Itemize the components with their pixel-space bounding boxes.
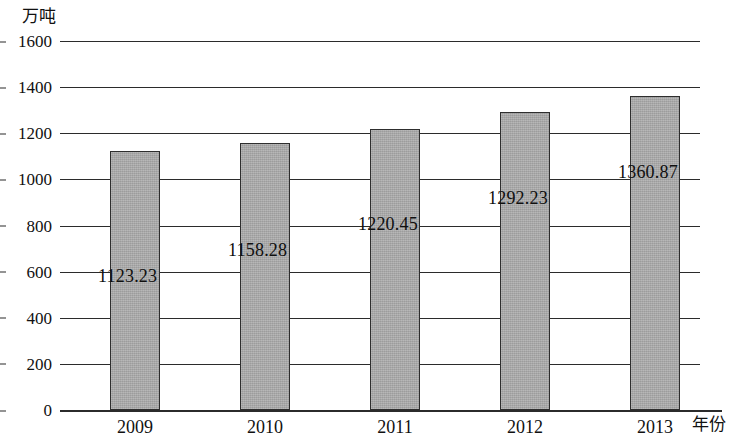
bar-fill-texture xyxy=(631,97,679,409)
gridline xyxy=(60,87,700,88)
y-axis-tick-label: 200 xyxy=(6,355,52,372)
y-axis-tick-label: 400 xyxy=(6,309,52,326)
y-axis-tick-label: 1400 xyxy=(6,79,52,96)
bar-value-label: 1360.87 xyxy=(618,163,678,181)
y-axis-tick-mark xyxy=(0,133,6,134)
x-axis-title: 年份 xyxy=(692,416,726,433)
x-axis-tick-label: 2013 xyxy=(637,418,673,436)
bar-fill-texture xyxy=(241,144,289,409)
plot-area: 1123.231158.281220.451292.231360.87 xyxy=(60,41,722,410)
y-axis-title: 万吨 xyxy=(22,8,56,25)
bar-value-label: 1220.45 xyxy=(358,215,418,233)
y-axis-tick-label: 1000 xyxy=(6,171,52,188)
bar-value-label: 1123.23 xyxy=(98,267,157,285)
y-axis-tick-mark xyxy=(0,41,6,42)
bar xyxy=(630,96,680,410)
bar-fill-texture xyxy=(501,113,549,409)
y-axis-tick-label: 1600 xyxy=(6,33,52,50)
y-axis-tick-mark xyxy=(0,179,6,180)
y-axis-tick-labels: 16001400120010008006004002000 xyxy=(0,41,52,410)
bar-chart: 万吨 年份 16001400120010008006004002000 1123… xyxy=(0,0,738,442)
y-axis-tick-label: 600 xyxy=(6,263,52,280)
bar-value-label: 1158.28 xyxy=(228,241,287,259)
y-axis-tick-label: 800 xyxy=(6,217,52,234)
y-axis-tick-mark xyxy=(0,364,6,365)
bar-value-label: 1292.23 xyxy=(488,189,548,207)
y-axis-tick-mark xyxy=(0,318,6,319)
x-axis-baseline xyxy=(60,410,722,412)
bar xyxy=(370,129,420,410)
y-axis-tick-mark xyxy=(0,87,6,88)
bar xyxy=(500,112,550,410)
bar-fill-texture xyxy=(371,130,419,409)
y-axis-tick-mark xyxy=(0,410,6,411)
x-axis-tick-label: 2011 xyxy=(377,418,412,436)
y-axis-tick-mark xyxy=(0,226,6,227)
x-axis-tick-label: 2010 xyxy=(247,418,283,436)
y-axis-tick-mark xyxy=(0,272,6,273)
bar xyxy=(240,143,290,410)
gridline xyxy=(60,41,700,42)
y-axis-tick-label: 1200 xyxy=(6,125,52,142)
x-axis-tick-label: 2012 xyxy=(507,418,543,436)
y-axis-tick-label: 0 xyxy=(6,402,52,419)
x-axis-tick-label: 2009 xyxy=(117,418,153,436)
